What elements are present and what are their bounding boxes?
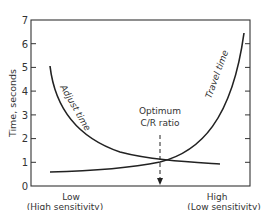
x-high-sub-label: (Low sensitivity) (187, 202, 260, 210)
svg-text:0: 0 (22, 181, 28, 192)
svg-text:5: 5 (22, 62, 28, 73)
svg-text:3: 3 (22, 110, 28, 121)
travel-time-label: Travel time (203, 48, 230, 99)
y-axis-label: Time, seconds (7, 69, 18, 138)
x-high-label: High (207, 192, 228, 202)
svg-text:2: 2 (22, 133, 28, 144)
svg-text:4: 4 (22, 86, 28, 97)
y-tick-labels: 0 1 2 3 4 5 6 7 (22, 15, 28, 192)
svg-text:7: 7 (22, 15, 28, 26)
optimum-label-line2: C/R ratio (140, 118, 180, 128)
arrow-down-icon (157, 178, 163, 185)
y-axis-ticks (31, 44, 36, 163)
x-low-label: Low (62, 192, 80, 202)
svg-text:6: 6 (22, 39, 28, 50)
optimum-label-line1: Optimum (139, 106, 181, 116)
x-low-sub-label: (High sensitivity) (27, 202, 103, 210)
svg-text:1: 1 (22, 157, 28, 168)
plot-frame (31, 20, 250, 186)
y-axis-ticks-right (245, 44, 250, 163)
chart: 0 1 2 3 4 5 6 7 Time, seconds Adjust tim… (0, 0, 264, 210)
